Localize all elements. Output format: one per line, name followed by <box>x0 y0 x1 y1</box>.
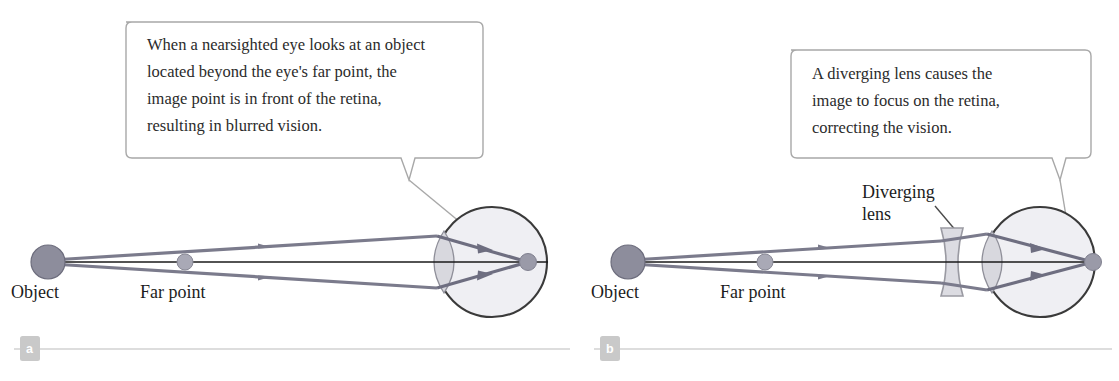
diverging-lens-label-line2: lens <box>862 204 891 224</box>
panel-a: When a nearsighted eye looks at an objec… <box>11 22 570 361</box>
callout-b-line-2: image to focus on the retina, <box>812 91 1000 110</box>
far-point-label-b: Far point <box>720 282 786 302</box>
diverging-lens-label-group: Diverging lens <box>862 182 957 232</box>
diverging-lens-label-line1: Diverging <box>862 182 935 202</box>
diagram-svg: When a nearsighted eye looks at an objec… <box>0 0 1119 381</box>
panel-b: A diverging lens causes the image to foc… <box>591 50 1112 361</box>
panel-letter-b-group: b <box>594 336 1112 361</box>
object-label-a: Object <box>11 282 59 302</box>
callout-a-line-1: When a nearsighted eye looks at an objec… <box>147 35 426 54</box>
far-point-label-a: Far point <box>140 282 206 302</box>
callout-a-line-2: located beyond the eye's far point, the <box>147 62 397 81</box>
image-point-b <box>1085 254 1102 271</box>
ray-a-upper-incident <box>52 236 437 260</box>
object-point-b <box>611 245 645 279</box>
panel-letter-a-group: a <box>14 336 570 361</box>
image-point-a <box>520 254 537 271</box>
callout-b-line-3: correcting the vision. <box>812 118 952 137</box>
far-point-a <box>177 254 193 270</box>
ray-b-lower-incident <box>632 264 941 283</box>
callout-a: When a nearsighted eye looks at an objec… <box>126 22 483 232</box>
object-label-b: Object <box>591 282 639 302</box>
object-point-a <box>31 245 65 279</box>
far-point-b <box>757 254 773 270</box>
panel-letter-b: b <box>606 342 614 356</box>
figure-nearsighted-eye-correction: When a nearsighted eye looks at an objec… <box>0 0 1119 381</box>
callout-a-line-3: image point is in front of the retina, <box>147 89 382 108</box>
callout-b-line-1: A diverging lens causes the <box>812 64 992 83</box>
panel-letter-a: a <box>26 342 34 356</box>
callout-a-line-4: resulting in blurred vision. <box>147 116 322 135</box>
ray-b-upper-incident <box>632 241 941 260</box>
ray-a-lower-incident <box>52 264 437 288</box>
